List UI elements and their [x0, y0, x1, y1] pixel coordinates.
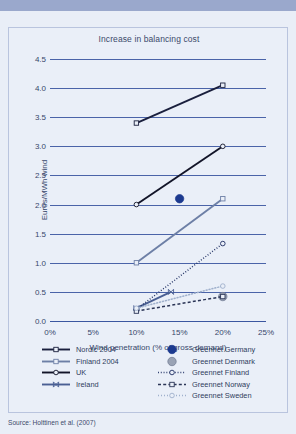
legend-marker-filled-circle-icon — [157, 356, 187, 367]
data-point-marker — [168, 346, 176, 354]
series-greennet-finland — [134, 241, 225, 311]
x-tick-label: 25% — [258, 328, 274, 337]
legend-marker-bowtie-icon — [41, 379, 71, 390]
y-tick-label: 4.5 — [35, 55, 46, 64]
series-nordic-2004 — [134, 83, 225, 125]
data-point-marker — [134, 261, 138, 265]
data-point-marker — [134, 306, 139, 311]
x-axis-line — [50, 321, 266, 322]
series-line — [136, 85, 222, 123]
plot-area: Euros/MWh wind 0.00.51.01.52.02.53.03.54… — [50, 59, 266, 321]
legend-item-label: Nordic 2004 — [76, 344, 116, 355]
y-tick-label: 1.5 — [35, 229, 46, 238]
chart-figure: Increase in balancing cost Euros/MWh win… — [8, 27, 288, 413]
y-tick-label: 2.5 — [35, 171, 46, 180]
legend-item: Greennet Norway — [157, 379, 255, 391]
data-point-marker — [175, 195, 183, 203]
data-point-marker — [134, 202, 139, 207]
series-greennet-sweden — [134, 284, 225, 311]
data-point-marker — [134, 121, 138, 125]
legend-item: Greennet Germany — [157, 344, 255, 356]
legend-marker-open-circle-icon — [157, 390, 187, 401]
data-point-marker — [168, 357, 176, 365]
legend-marker-open-circle-icon — [157, 367, 187, 378]
y-tick-label: 2.0 — [35, 200, 46, 209]
x-tick-label: 20% — [215, 328, 231, 337]
legend-item: Ireland — [41, 379, 119, 391]
x-tick-label: 15% — [172, 328, 188, 337]
legend-item-label: Finland 2004 — [76, 356, 119, 367]
legend-marker-open-square-icon — [157, 379, 187, 390]
data-point-marker — [170, 382, 174, 386]
data-point-marker — [221, 144, 226, 149]
legend-column-right: Greennet GermanyGreennet DenmarkGreennet… — [157, 344, 255, 402]
top-banner-bar — [0, 0, 296, 11]
x-tick-label: 5% — [87, 328, 99, 337]
x-tick-label: 0% — [44, 328, 56, 337]
series-line — [136, 297, 222, 312]
legend-marker-open-square-icon — [41, 356, 71, 367]
legend-item-label: Greennet Norway — [192, 379, 250, 390]
chart-legend: Nordic 2004Finland 2004UKIreland Greenne… — [19, 344, 281, 406]
data-point-marker — [54, 348, 58, 352]
y-tick-label: 0.0 — [35, 317, 46, 326]
data-point-marker — [170, 370, 175, 375]
legend-column-left: Nordic 2004Finland 2004UKIreland — [41, 344, 119, 390]
y-tick-label: 4.0 — [35, 84, 46, 93]
y-tick-label: 1.0 — [35, 258, 46, 267]
legend-item: Finland 2004 — [41, 356, 119, 368]
legend-item-label: Greennet Finland — [192, 367, 249, 378]
legend-item: UK — [41, 367, 119, 379]
y-tick-label: 3.0 — [35, 142, 46, 151]
data-point-marker — [170, 393, 175, 398]
data-point-marker — [221, 284, 226, 289]
data-point-marker — [54, 370, 59, 375]
series-line — [136, 286, 222, 308]
legend-item: Greennet Finland — [157, 367, 255, 379]
legend-marker-filled-circle-icon — [157, 344, 187, 355]
legend-item-label: Ireland — [76, 379, 99, 390]
y-axis-label: Euros/MWh wind — [40, 160, 49, 220]
legend-marker-open-square-icon — [41, 344, 71, 355]
series-finland-2004 — [134, 197, 225, 265]
data-point-marker — [221, 83, 225, 87]
source-note: Source: Holttinen et al. (2007) — [8, 419, 96, 426]
legend-item: Greennet Sweden — [157, 390, 255, 402]
data-point-marker — [221, 197, 225, 201]
series-layer — [50, 59, 266, 321]
data-point-marker — [54, 359, 58, 363]
legend-item: Nordic 2004 — [41, 344, 119, 356]
legend-item-label: Greennet Germany — [192, 344, 255, 355]
legend-item-label: UK — [76, 367, 86, 378]
legend-item-label: Greennet Sweden — [192, 390, 252, 401]
data-point-marker — [221, 294, 225, 298]
y-tick-label: 3.5 — [35, 113, 46, 122]
series-greennet-germany — [175, 195, 183, 203]
legend-item: Greennet Denmark — [157, 356, 255, 368]
legend-marker-open-circle-icon — [41, 367, 71, 378]
data-point-marker — [221, 241, 226, 246]
y-tick-label: 0.5 — [35, 287, 46, 296]
x-tick-label: 10% — [128, 328, 144, 337]
chart-title: Increase in balancing cost — [9, 34, 289, 44]
legend-item-label: Greennet Denmark — [192, 356, 255, 367]
figure-card: Increase in balancing cost Euros/MWh win… — [0, 11, 296, 434]
